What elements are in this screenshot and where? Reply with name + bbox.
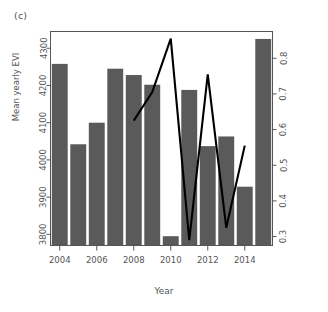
- y-axis-left-tick-label: 4100: [39, 112, 49, 134]
- y-axis-left-title: Mean yearly EVI: [11, 27, 21, 147]
- bar-2011: [181, 90, 197, 246]
- bar-2010: [163, 236, 179, 245]
- y-axis-right-tick-label: 0.6: [279, 123, 289, 137]
- y-axis-left-tick-label: 4000: [39, 149, 49, 171]
- x-axis-tick-label: 2012: [197, 255, 219, 265]
- panel-label: (c): [14, 10, 27, 21]
- x-axis-tick-label: 2008: [123, 255, 145, 265]
- bars-group: [52, 39, 271, 246]
- x-axis-title: Year: [0, 286, 328, 296]
- x-axis-tick-label: 2014: [234, 255, 256, 265]
- x-axis-tick-label: 2006: [86, 255, 108, 265]
- bar-2013: [218, 136, 234, 245]
- y-axis-right-tick-label: 0.5: [279, 158, 289, 172]
- bar-2007: [107, 69, 123, 246]
- x-axis-tick-label: 2010: [160, 255, 182, 265]
- bar-2005: [70, 144, 86, 245]
- y-axis-left-tick-label: 3900: [39, 186, 49, 208]
- bar-2004: [52, 64, 68, 246]
- figure-panel-c: (c) Mean yearly EVI Proportion of infant…: [0, 0, 328, 312]
- bar-2012: [200, 146, 216, 245]
- bar-2009: [144, 85, 160, 246]
- bar-2015: [255, 39, 271, 246]
- bar-2006: [89, 123, 105, 246]
- bar-2008: [126, 75, 142, 245]
- y-axis-right-tick-label: 0.7: [279, 87, 289, 101]
- y-axis-left-tick-label: 4300: [39, 37, 49, 59]
- x-axis-tick-label: 2004: [49, 255, 71, 265]
- bar-2014: [237, 187, 253, 246]
- y-axis-right-tick-label: 0.4: [279, 194, 289, 208]
- y-axis-left-tick-label: 3800: [39, 224, 49, 246]
- y-axis-left-tick-label: 4200: [39, 75, 49, 97]
- y-axis-right-tick-label: 0.8: [279, 51, 289, 65]
- plot-canvas: 3800390040004100420043000.30.40.50.60.70…: [0, 0, 328, 312]
- y-axis-right-tick-label: 0.3: [279, 230, 289, 244]
